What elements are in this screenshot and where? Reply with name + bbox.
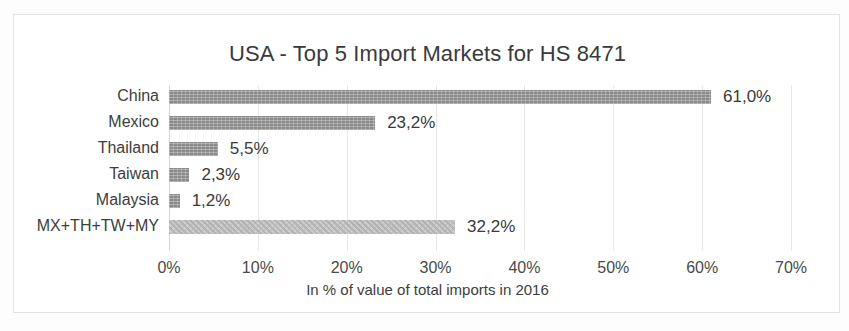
category-label: Mexico [108,113,159,131]
bar-row: Thailand5,5% [169,137,791,163]
bar-row: Taiwan2,3% [169,163,791,189]
bar-row: Malaysia1,2% [169,189,791,215]
bar [169,142,218,156]
bar-row: Mexico23,2% [169,111,791,137]
chart-frame: USA - Top 5 Import Markets for HS 8471 C… [13,14,840,313]
x-tick-label: 60% [686,259,718,277]
plot-area: China61,0%Mexico23,2%Thailand5,5%Taiwan2… [169,85,791,251]
bar [169,194,180,208]
category-label: Taiwan [109,165,159,183]
x-tick-label: 50% [597,259,629,277]
category-label: Thailand [98,139,159,157]
x-tick-label: 70% [775,259,807,277]
category-label: MX+TH+TW+MY [37,217,159,235]
category-label: Malaysia [96,191,159,209]
bar-row: China61,0% [169,85,791,111]
category-label: China [117,87,159,105]
data-label: 61,0% [723,87,771,107]
x-tick-label: 30% [420,259,452,277]
x-axis-title: In % of value of total imports in 2016 [14,281,841,298]
x-tick-label: 0% [157,259,180,277]
x-tick-label: 20% [331,259,363,277]
chart-screenshot: USA - Top 5 Import Markets for HS 8471 C… [0,0,849,331]
data-label: 2,3% [201,165,240,185]
bar [169,116,375,130]
x-tick-label: 40% [508,259,540,277]
gridline [791,85,792,251]
bar [169,168,189,182]
chart-title: USA - Top 5 Import Markets for HS 8471 [14,41,841,67]
bar [169,90,711,104]
bar-row: MX+TH+TW+MY32,2% [169,215,791,241]
data-label: 5,5% [230,139,269,159]
bar [169,220,455,234]
data-label: 32,2% [467,217,515,237]
data-label: 23,2% [387,113,435,133]
data-label: 1,2% [192,191,231,211]
x-tick-label: 10% [242,259,274,277]
